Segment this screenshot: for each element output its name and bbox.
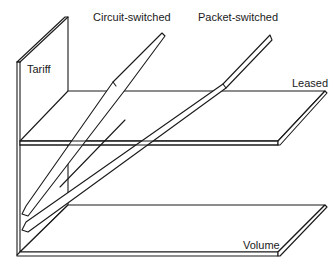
tariff-volume-diagram: Circuit-switched Packet-switched Tariff … xyxy=(0,0,336,271)
label-packet-switched: Packet-switched xyxy=(198,11,278,23)
leased-plane xyxy=(20,91,327,145)
volume-floor-plane xyxy=(17,205,327,256)
label-leased: Leased xyxy=(292,77,328,89)
label-circuit-switched: Circuit-switched xyxy=(93,11,171,23)
label-tariff: Tariff xyxy=(27,63,52,75)
label-volume: Volume xyxy=(243,239,280,251)
